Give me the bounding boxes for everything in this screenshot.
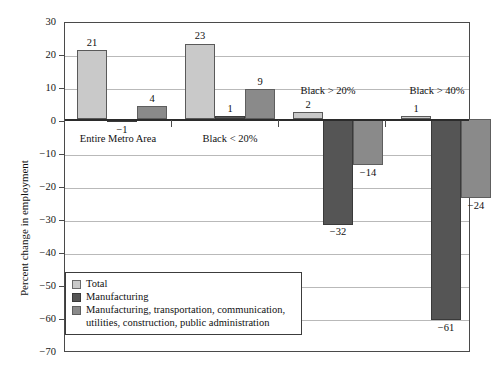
- bar-total-entire-metro-area: [77, 50, 107, 119]
- legend-label-manufacturing-plus: Manufacturing, transportation, communica…: [86, 304, 285, 316]
- chart-legend: Total Manufacturing Manufacturing, trans…: [65, 272, 302, 335]
- group-label-entire-metro-area: Entire Metro Area: [68, 133, 168, 144]
- y-tick-10: 10: [26, 83, 56, 93]
- bar-manufacturing-plus-black-gt-20: [353, 119, 383, 165]
- zero-axis-line: [65, 119, 469, 121]
- legend-item-total: Total: [72, 278, 295, 290]
- bar-manufacturing-plus-entire-metro-area: [137, 106, 167, 119]
- legend-label-manufacturing-plus-continued: utilities, construction, public administ…: [86, 317, 295, 329]
- y-tick-neg10: −10: [26, 149, 56, 159]
- value-label-total-g2: 23: [180, 30, 220, 41]
- gridline-neg30: [65, 221, 469, 222]
- group-label-black-gt-40: Black > 40%: [387, 85, 487, 96]
- x-separator-2: [278, 120, 279, 127]
- group-label-black-gt-20: Black > 20%: [278, 85, 378, 96]
- value-label-mfg-g4: −61: [426, 322, 466, 333]
- value-label-mfg-g3: −32: [318, 226, 358, 237]
- x-separator-1: [171, 120, 172, 127]
- gridline-neg40: [65, 254, 469, 255]
- legend-label-manufacturing: Manufacturing: [86, 291, 148, 303]
- x-separator-3: [385, 120, 386, 127]
- legend-item-manufacturing-plus: Manufacturing, transportation, communica…: [72, 304, 295, 316]
- value-label-mfgplus-g3: −14: [348, 167, 388, 178]
- value-label-mfgplus-g4: −24: [456, 200, 495, 211]
- bar-manufacturing-black-gt-40: [431, 119, 461, 320]
- legend-swatch-manufacturing-plus-icon: [72, 306, 81, 315]
- y-tick-20: 20: [26, 50, 56, 60]
- legend-swatch-total-icon: [72, 280, 81, 289]
- gridline-neg20: [65, 188, 469, 189]
- y-axis-label: Percent change in employment: [18, 160, 30, 296]
- bar-manufacturing-plus-black-gt-40: [461, 119, 491, 198]
- value-label-total-g1: 21: [72, 37, 112, 48]
- y-tick-neg40: −40: [26, 248, 56, 258]
- gridline-20: [65, 56, 469, 57]
- y-tick-neg30: −30: [26, 215, 56, 225]
- value-label-mfgplus-g2: 9: [240, 76, 280, 87]
- group-label-black-lt-20: Black < 20%: [180, 133, 280, 144]
- value-label-mfgplus-g1: 4: [132, 93, 172, 104]
- y-tick-neg70: −70: [26, 347, 56, 357]
- value-label-total-g4: 1: [396, 103, 436, 114]
- y-tick-30: 30: [26, 17, 56, 27]
- gridline-neg10: [65, 155, 469, 156]
- legend-item-manufacturing: Manufacturing: [72, 291, 295, 303]
- y-tick-neg50: −50: [26, 281, 56, 291]
- y-tick-neg60: −60: [26, 314, 56, 324]
- value-label-mfg-g2: 1: [210, 103, 250, 114]
- value-label-total-g3: 2: [288, 99, 328, 110]
- bar-total-black-gt-20: [293, 112, 323, 119]
- y-tick-0: 0: [26, 116, 56, 126]
- legend-label-total: Total: [86, 278, 107, 290]
- y-tick-neg20: −20: [26, 182, 56, 192]
- legend-swatch-manufacturing-icon: [72, 293, 81, 302]
